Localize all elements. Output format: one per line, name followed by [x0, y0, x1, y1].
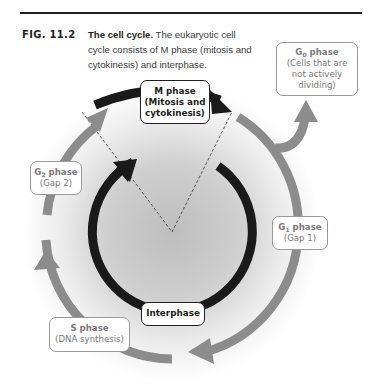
g0-phase-title: G0 phase — [277, 47, 357, 58]
g2-phase-box: G2 phase (Gap 2) — [30, 161, 82, 195]
g0-line1: (Cells that are — [277, 58, 357, 69]
s-phase-title: S phase — [50, 323, 129, 334]
arrow-to-g0 — [294, 100, 318, 122]
interphase-box: Interphase — [141, 302, 205, 326]
m-phase-line1: (Mitosis and — [141, 97, 209, 108]
m-phase-line2: cytokinesis) — [141, 108, 209, 119]
g2-phase-title: G2 phase — [31, 167, 81, 178]
g1-title-rest: phase — [290, 222, 322, 232]
g0-title-rest: phase — [307, 47, 339, 57]
interphase-label: Interphase — [146, 308, 200, 318]
g2-title-rest: phase — [46, 167, 78, 177]
s-phase-box: S phase (DNA synthesis) — [49, 317, 130, 352]
g1-phase-title: G1 phase — [273, 222, 327, 233]
s-phase-line1: (DNA synthesis) — [50, 334, 129, 345]
g0-line2: not actively — [277, 69, 357, 80]
g1-phase-box: G1 phase (Gap 1) — [272, 216, 328, 250]
g1-line1: (Gap 1) — [273, 233, 327, 244]
g0-phase-box: G0 phase (Cells that are not actively di… — [276, 42, 358, 96]
m-phase-title: M phase — [141, 86, 209, 97]
g2-line1: (Gap 2) — [31, 178, 81, 189]
m-phase-box: M phase (Mitosis and cytokinesis) — [140, 80, 210, 124]
g0-line3: dividing) — [277, 80, 357, 91]
